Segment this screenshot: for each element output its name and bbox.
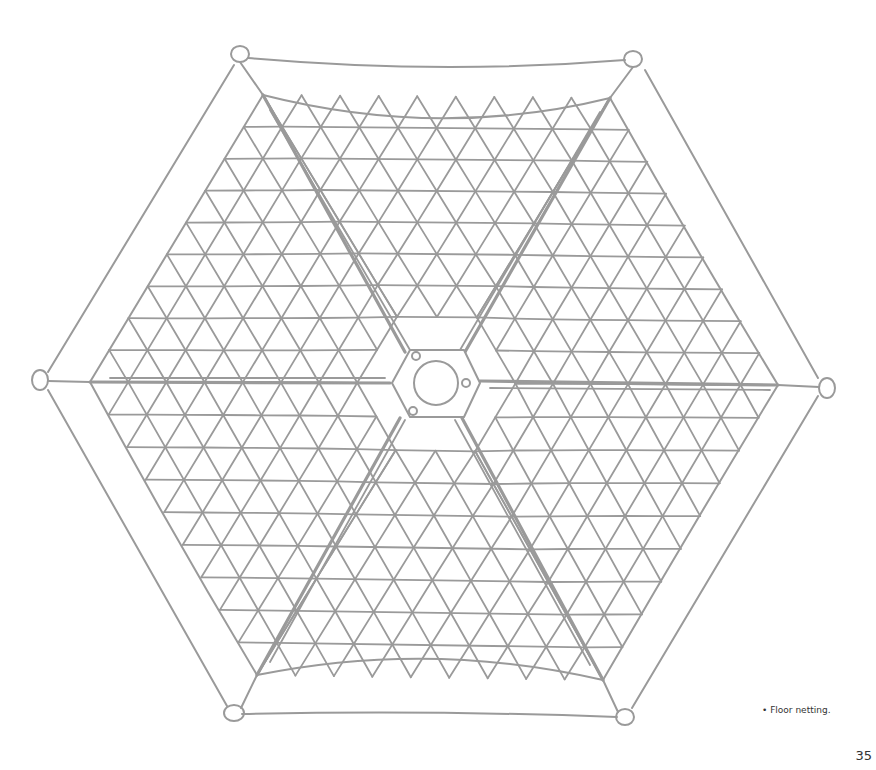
anchor-ring-icon	[32, 370, 48, 390]
anchor-ring-icon	[231, 46, 249, 62]
floor-netting-drawing	[0, 0, 876, 770]
page-number: 35	[855, 748, 872, 763]
center-hub	[392, 350, 480, 417]
anchor-ring-icon	[624, 51, 642, 67]
anchor-ring-icon	[819, 378, 835, 398]
figure-caption: • Floor netting.	[762, 705, 831, 715]
